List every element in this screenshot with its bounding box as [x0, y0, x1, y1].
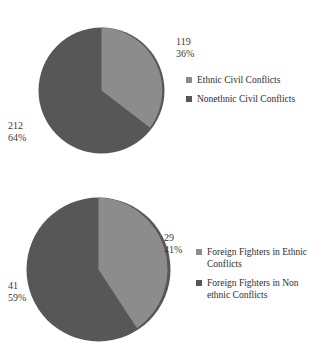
pie-bottom — [26, 197, 171, 342]
legend-item-foreign-fighters-nonethnic: Foreign Fighters in Non ethnic Conflicts — [196, 277, 319, 301]
legend-label-nonethnic: Nonethnic Civil Conflicts — [197, 93, 295, 105]
pie-top-label-nonethnic-percent: 64% — [8, 132, 26, 144]
pie-bottom-label-nonethnic-value: 41 — [8, 280, 26, 292]
legend-label-ff-nonethnic: Foreign Fighters in Non ethnic Conflicts — [207, 277, 319, 301]
pie-bottom-label-ethnic: 29 41% — [164, 232, 182, 255]
legend-swatch-icon-ethnic — [186, 77, 192, 83]
pie-bottom-svg — [26, 197, 171, 342]
pie-bottom-label-nonethnic: 41 59% — [8, 280, 26, 303]
legend-item-ethnic-civil-conflicts: Ethnic Civil Conflicts — [186, 74, 295, 86]
legend-swatch-icon-ff-ethnic — [196, 249, 202, 255]
pie-bottom-label-nonethnic-percent: 59% — [8, 292, 26, 304]
chart-foreign-fighters: 29 41% 41 59% Foreign Fighters in Ethnic… — [0, 180, 330, 351]
chart-civil-conflicts: 119 36% 212 64% Ethnic Civil Conflicts N… — [0, 0, 330, 180]
legend-label-ethnic: Ethnic Civil Conflicts — [197, 74, 280, 86]
pie-bottom-label-ethnic-value: 29 — [164, 232, 182, 244]
pie-top-svg — [38, 27, 165, 154]
legend-label-ff-ethnic: Foreign Fighters in Ethnic Conflicts — [207, 246, 319, 270]
legend-item-nonethnic-civil-conflicts: Nonethnic Civil Conflicts — [186, 93, 295, 105]
pie-top-label-nonethnic-value: 212 — [8, 120, 26, 132]
pie-top-label-ethnic-value: 119 — [176, 36, 194, 48]
pie-top-label-ethnic: 119 36% — [176, 36, 194, 59]
pie-top-label-nonethnic: 212 64% — [8, 120, 26, 143]
pie-top-label-ethnic-percent: 36% — [176, 48, 194, 60]
pie-top — [38, 27, 165, 154]
legend-top: Ethnic Civil Conflicts Nonethnic Civil C… — [186, 74, 295, 112]
legend-bottom: Foreign Fighters in Ethnic Conflicts For… — [196, 246, 319, 308]
legend-swatch-icon-ff-nonethnic — [196, 280, 202, 286]
pie-chart-figure: 119 36% 212 64% Ethnic Civil Conflicts N… — [0, 0, 330, 351]
pie-bottom-label-ethnic-percent: 41% — [164, 244, 182, 256]
legend-swatch-icon-nonethnic — [186, 96, 192, 102]
legend-item-foreign-fighters-ethnic: Foreign Fighters in Ethnic Conflicts — [196, 246, 319, 270]
